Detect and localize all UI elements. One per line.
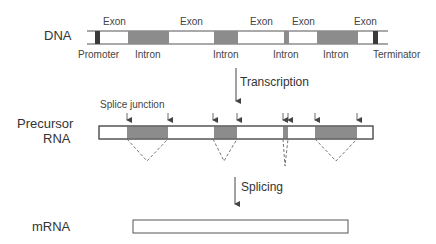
rna-intron-1 <box>127 126 168 139</box>
dna-intron-3 <box>284 31 289 44</box>
rna-intron-4 <box>315 126 357 139</box>
promoter-block <box>95 31 100 44</box>
mrna-strand <box>133 220 348 233</box>
rna-intron-2 <box>214 126 237 139</box>
splice-junction-arrows <box>127 113 357 120</box>
splice-loops <box>127 139 357 166</box>
dna-intron-2 <box>214 31 238 44</box>
dna-intron-4 <box>317 31 358 44</box>
dna-strand <box>87 31 388 44</box>
terminator-block <box>373 31 378 44</box>
rna-intron-3 <box>283 126 288 139</box>
precursor-rna-strand <box>99 126 373 139</box>
dna-intron-1 <box>128 31 169 44</box>
gene-expression-diagram <box>0 0 436 244</box>
